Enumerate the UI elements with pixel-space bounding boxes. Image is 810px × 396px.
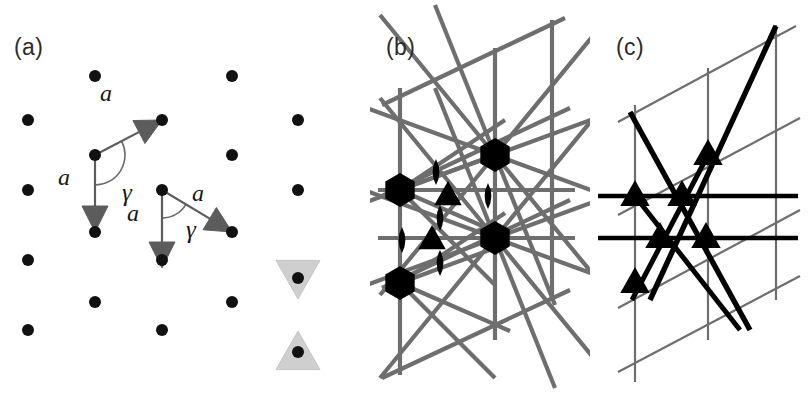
lattice-dot xyxy=(226,226,238,238)
lattice-dot xyxy=(292,114,304,126)
lattice-dot xyxy=(292,346,304,358)
panel-b: (b) xyxy=(370,0,590,396)
vector-label-a3: a xyxy=(192,180,204,207)
angle-arc-1 xyxy=(162,204,186,218)
lattice-dot xyxy=(22,184,34,196)
cell-edge-oblique xyxy=(382,18,565,105)
lattice-dot xyxy=(89,296,101,308)
panel-a-graphics xyxy=(0,0,370,396)
mirror-bold-diagonal xyxy=(630,112,750,330)
lattice-dot xyxy=(226,149,238,161)
triangle-3fold xyxy=(620,180,649,206)
lattice-dot xyxy=(292,184,304,196)
lattice-dot xyxy=(156,184,168,196)
lattice-dot xyxy=(156,254,168,266)
lattice-dot xyxy=(226,70,238,82)
lattice-dot xyxy=(226,296,238,308)
lattice-dot xyxy=(22,324,34,336)
vector-label-a4: a xyxy=(127,200,139,227)
lattice-dot xyxy=(292,272,304,284)
lens-2fold xyxy=(485,183,492,209)
lattice-dot xyxy=(156,324,168,336)
figure-root: (a) a a γ a a γ (b) (c) xyxy=(0,0,810,396)
mirror-diagonal xyxy=(495,15,590,155)
panel-a: (a) a a γ a a γ xyxy=(0,0,370,396)
panel-c: (c) xyxy=(590,0,810,396)
lattice-dot xyxy=(89,226,101,238)
lattice-dot xyxy=(156,114,168,126)
panel-a-label: (a) xyxy=(14,34,43,61)
mirror-diagonal xyxy=(495,238,555,388)
cell-edge-oblique xyxy=(382,290,570,378)
angle-label-gamma-2: γ xyxy=(186,216,196,244)
lattice-dot xyxy=(89,149,101,161)
vector-label-a1: a xyxy=(100,80,112,107)
vector-label-a2: a xyxy=(58,164,70,191)
lattice-dot xyxy=(22,114,34,126)
lattice-dot xyxy=(22,254,34,266)
panel-c-label: (c) xyxy=(616,34,644,61)
panel-b-label: (b) xyxy=(386,34,415,61)
